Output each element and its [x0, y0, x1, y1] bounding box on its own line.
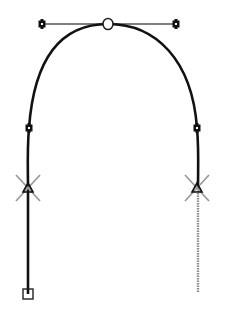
circle-anchor-icon[interactable]: [103, 19, 113, 30]
left-side-handle[interactable]: [26, 123, 33, 133]
start-point-square[interactable]: [23, 289, 33, 299]
right-top-handle[interactable]: [173, 19, 180, 29]
curve-path[interactable]: [28, 24, 199, 294]
right-side-handle[interactable]: [194, 123, 201, 133]
bezier-diagram: [0, 0, 228, 310]
control-handles[interactable]: [26, 19, 201, 133]
left-top-handle[interactable]: [39, 19, 46, 29]
top-anchor-point[interactable]: [103, 19, 113, 30]
crossed-anchors[interactable]: [16, 175, 209, 201]
